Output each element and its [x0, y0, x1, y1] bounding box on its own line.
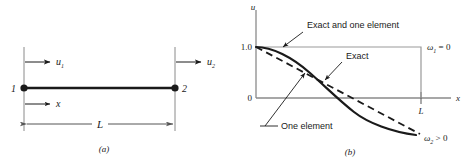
x-axis-label: x: [55, 98, 61, 109]
leader-one-element: [265, 73, 305, 126]
plot-y-axis-label: u: [251, 2, 256, 12]
annotation-omega2: ω2 > 0: [424, 133, 448, 145]
node-1-label: 1: [11, 83, 16, 94]
annotation-omega1: ω1 = 0: [427, 42, 451, 54]
panel-a: u1 u2 1 2 x L (a): [11, 47, 215, 154]
plot-xtick-L: L: [417, 106, 423, 116]
figure-container: u1 u2 1 2 x L (a) u x 1.0 0: [0, 0, 469, 166]
plot-ytick-1.0: 1.0: [241, 42, 253, 52]
panel-a-caption: (a): [99, 144, 110, 154]
annotation-exact-and-one-element: Exact and one element: [307, 20, 400, 30]
panel-b-caption: (b): [345, 147, 356, 157]
annotation-exact: Exact: [346, 51, 369, 61]
length-label: L: [96, 118, 103, 130]
dof-label-u1: u1: [56, 56, 64, 69]
dof-label-u2: u2: [207, 56, 215, 69]
node-2-marker: [171, 84, 178, 91]
plot-x-axis-label: x: [455, 93, 460, 103]
leader-exact: [325, 62, 342, 80]
leader-exact-and-one-element: [283, 32, 303, 47]
node-2-label: 2: [182, 83, 187, 94]
plot-ytick-0: 0: [248, 93, 253, 103]
panel-b: u x 1.0 0 L Exact and one element Exact …: [241, 2, 460, 157]
node-1-marker: [20, 84, 27, 91]
annotation-one-element: One element: [281, 121, 333, 131]
